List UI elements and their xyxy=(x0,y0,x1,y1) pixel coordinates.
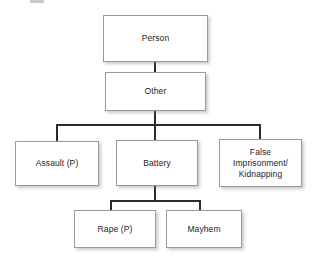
connector-other-trunk xyxy=(154,111,156,125)
node-rape-label: Rape (P) xyxy=(95,224,136,235)
connector-drop-battery xyxy=(154,124,156,141)
connector-person-to-other xyxy=(154,62,156,72)
node-false-imprisonment-kidnapping[interactable]: False Imprisonment/ Kidnapping xyxy=(219,139,302,187)
node-assault[interactable]: Assault (P) xyxy=(15,141,99,186)
hierarchy-diagram: Person Other Assault (P) Battery False I… xyxy=(0,0,320,266)
node-person[interactable]: Person xyxy=(103,15,208,62)
connector-drop-assault xyxy=(56,124,58,142)
node-rape[interactable]: Rape (P) xyxy=(74,210,156,248)
node-other[interactable]: Other xyxy=(105,72,206,111)
connector-battery-trunk xyxy=(154,186,156,201)
node-person-label: Person xyxy=(139,33,173,44)
scan-artifact xyxy=(30,0,44,3)
node-false-imprisonment-kidnapping-label: False Imprisonment/ Kidnapping xyxy=(230,147,291,180)
node-battery[interactable]: Battery xyxy=(116,140,198,186)
node-assault-label: Assault (P) xyxy=(33,158,82,169)
node-battery-label: Battery xyxy=(140,158,174,169)
node-mayhem-label: Mayhem xyxy=(184,224,223,235)
connector-level4-bar xyxy=(110,200,201,202)
node-other-label: Other xyxy=(142,86,170,97)
node-mayhem[interactable]: Mayhem xyxy=(166,210,242,248)
connector-level3-bar xyxy=(56,124,261,126)
connector-drop-false-imprisonment xyxy=(259,124,261,140)
